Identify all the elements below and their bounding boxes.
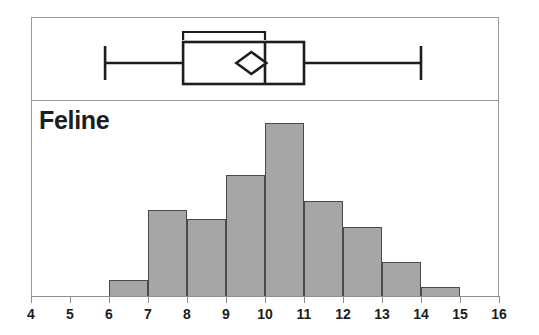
x-axis-tick bbox=[265, 296, 266, 303]
x-axis-tick-label: 11 bbox=[297, 306, 312, 322]
x-axis-tick-label: 4 bbox=[27, 306, 35, 322]
x-axis-tick bbox=[382, 296, 383, 303]
x-axis-tick bbox=[304, 296, 305, 303]
x-axis-tick-label: 8 bbox=[183, 306, 191, 322]
x-axis-tick-label: 16 bbox=[491, 306, 507, 322]
histogram-bar bbox=[304, 201, 343, 297]
x-axis-tick bbox=[109, 296, 110, 303]
x-axis-tick bbox=[70, 296, 71, 303]
x-axis-tick bbox=[421, 296, 422, 303]
x-axis-tick bbox=[343, 296, 344, 303]
boxplot-graphic bbox=[31, 17, 499, 100]
x-axis-tick-label: 10 bbox=[257, 306, 273, 322]
histogram-bar bbox=[265, 123, 304, 297]
x-axis-tick-label: 9 bbox=[222, 306, 230, 322]
histogram-bar bbox=[148, 210, 187, 297]
histogram-bars bbox=[31, 100, 499, 297]
histogram-bar bbox=[226, 175, 265, 297]
histogram-panel: Feline bbox=[31, 100, 499, 297]
x-axis-tick-label: 13 bbox=[374, 306, 390, 322]
x-axis-tick-label: 5 bbox=[66, 306, 74, 322]
x-axis-tick-label: 15 bbox=[452, 306, 468, 322]
x-axis-tick bbox=[148, 296, 149, 303]
x-axis-tick-label: 12 bbox=[335, 306, 351, 322]
histogram-bar bbox=[382, 262, 421, 297]
x-axis-tick-label: 7 bbox=[144, 306, 152, 322]
boxplot-panel bbox=[31, 17, 499, 100]
x-axis-tick bbox=[31, 296, 32, 303]
boxplot-confidence-bracket bbox=[183, 32, 265, 40]
x-axis-tick-label: 6 bbox=[105, 306, 113, 322]
x-axis-tick bbox=[226, 296, 227, 303]
x-axis-tick bbox=[499, 296, 500, 303]
x-axis-tick-label: 14 bbox=[413, 306, 429, 322]
x-axis-tick bbox=[187, 296, 188, 303]
histogram-bar bbox=[109, 280, 148, 297]
histogram-bar bbox=[343, 227, 382, 297]
statistics-figure: Feline 45678910111213141516 bbox=[0, 0, 539, 335]
x-axis-tick bbox=[460, 296, 461, 303]
x-axis: 45678910111213141516 bbox=[0, 296, 539, 335]
histogram-bar bbox=[187, 219, 226, 297]
